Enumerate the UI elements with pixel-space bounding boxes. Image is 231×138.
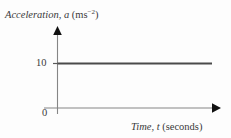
x-axis-arrowhead-icon (212, 103, 221, 113)
acceleration-time-graph: Acceleration, a (ms−2) Time, t (seconds)… (0, 0, 231, 138)
plot-area (0, 0, 231, 138)
y-axis-arrowhead-icon (53, 26, 62, 35)
